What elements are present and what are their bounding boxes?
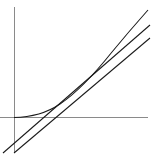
- convex-curve: [14, 10, 148, 118]
- chart-figure: [0, 0, 155, 157]
- tangent-line-shallower: [14, 38, 150, 153]
- tangent-line-steeper: [3, 25, 150, 153]
- plot-canvas: [0, 0, 155, 157]
